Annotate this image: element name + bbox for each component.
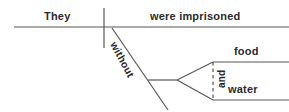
predicate-label: were imprisoned (150, 11, 240, 22)
object-1-label: food (234, 46, 259, 57)
sentence-diagram-canvas: They were imprisoned without food and wa… (0, 0, 289, 112)
fork-lower-line (177, 80, 213, 100)
subject-label: They (44, 11, 70, 22)
object-2-label: water (228, 84, 258, 95)
conjunction-label: and (217, 70, 227, 88)
fork-upper-line (177, 62, 213, 80)
